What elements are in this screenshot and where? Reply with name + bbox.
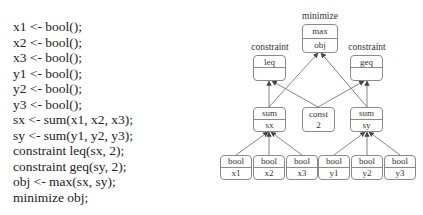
edge-y3-sy (369, 132, 400, 155)
minimize-label: minimize (296, 11, 344, 21)
node-bool-x3: bool x3 (286, 155, 318, 180)
node-sum-sy: sum sy (350, 107, 383, 132)
node-bool-y3: bool y3 (384, 155, 416, 180)
node-const-2: const 2 (302, 107, 335, 132)
node-op: bool (221, 156, 251, 168)
node-geq: geq (350, 55, 383, 81)
constraint-label-left: constraint (243, 42, 297, 52)
node-op: bool (254, 156, 284, 168)
node-name (254, 68, 285, 80)
node-op: const (303, 108, 334, 120)
node-name: y3 (385, 168, 415, 180)
node-bool-x1: bool x1 (220, 155, 252, 180)
node-name: y2 (352, 168, 382, 180)
edge-x3-sx (271, 132, 302, 155)
node-name: obj (303, 39, 337, 53)
node-name: x1 (221, 168, 251, 180)
node-op: sum (254, 108, 285, 120)
node-op: geq (351, 56, 382, 68)
node-bool-y1: bool y1 (318, 155, 350, 180)
node-name: x2 (254, 168, 284, 180)
node-bool-y2: bool y2 (351, 155, 383, 180)
node-sum-sx: sum sx (253, 107, 286, 132)
node-op: sum (351, 108, 382, 120)
edge-x1-sx (236, 132, 268, 155)
node-name (351, 68, 382, 80)
node-bool-x2: bool x2 (253, 155, 285, 180)
edge-y1-sy (334, 132, 365, 155)
edge-const-leq (272, 81, 318, 107)
node-name: 2 (303, 120, 334, 132)
node-op: bool (352, 156, 382, 168)
node-op: bool (385, 156, 415, 168)
node-leq: leq (253, 55, 286, 81)
edge-const-geq (318, 81, 364, 107)
constraint-label-right: constraint (340, 42, 394, 52)
node-name: sy (351, 120, 382, 132)
node-max-obj: max obj (302, 24, 338, 53)
node-name: x3 (287, 168, 317, 180)
node-name: y1 (319, 168, 349, 180)
node-op: max (303, 25, 337, 39)
node-op: bool (287, 156, 317, 168)
node-op: leq (254, 56, 285, 68)
node-name: sx (254, 120, 285, 132)
node-op: bool (319, 156, 349, 168)
